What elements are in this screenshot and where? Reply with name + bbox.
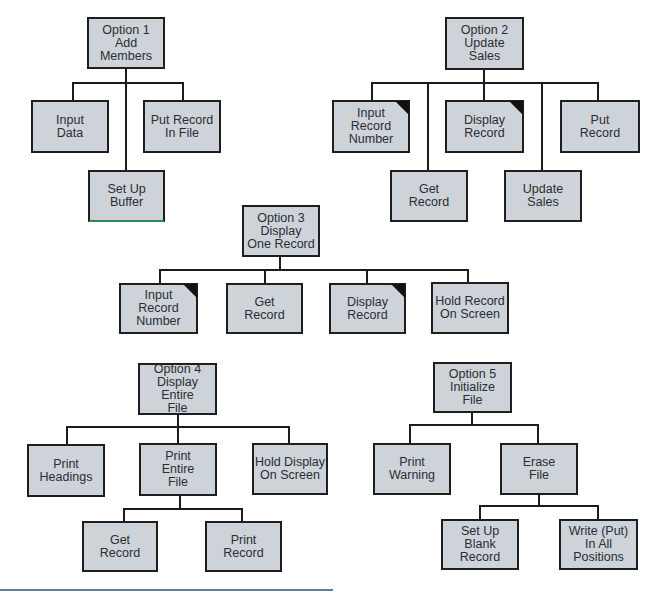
- option2-update-sales-box: Option 2 Update Sales: [445, 17, 524, 70]
- set-up-buffer-box: Set Up Buffer: [88, 170, 165, 222]
- connector: [159, 269, 469, 271]
- connector: [288, 426, 290, 443]
- input-record-number-label: Input Record Number: [349, 107, 393, 146]
- connector: [123, 508, 243, 510]
- connector: [264, 269, 266, 283]
- option3-display-one-record-box: Option 3 Display One Record: [242, 205, 320, 257]
- update-sales-box: Update Sales: [504, 170, 582, 222]
- connector: [371, 82, 599, 84]
- input-data-box: Input Data: [31, 100, 109, 153]
- corner-marker-icon: [509, 101, 523, 115]
- connector: [479, 505, 599, 507]
- connector: [123, 508, 125, 521]
- connector: [537, 424, 539, 443]
- connector: [125, 69, 127, 170]
- connector: [177, 414, 179, 443]
- connector: [72, 82, 184, 84]
- display-record-label: Display Record: [464, 114, 505, 140]
- erase-file-box: Erase File: [500, 443, 578, 495]
- display-record-box: Display Record: [329, 283, 406, 334]
- get-record-box: Get Record: [226, 283, 303, 334]
- connector: [179, 495, 181, 509]
- print-headings-box: Print Headings: [27, 444, 105, 497]
- connector: [66, 426, 68, 444]
- connector: [72, 82, 74, 100]
- connector: [427, 82, 429, 170]
- connector: [541, 82, 543, 170]
- put-record-in-file-box: Put Record In File: [143, 100, 221, 153]
- display-record-box: Display Record: [445, 100, 524, 153]
- input-record-number-box: Input Record Number: [119, 283, 198, 334]
- input-record-number-box: Input Record Number: [332, 100, 410, 153]
- option5-initialize-file-box: Option 5 Initialize File: [433, 362, 512, 413]
- option4-display-entire-file-box: Option 4 Display Entire File: [138, 363, 217, 415]
- get-record-box: Get Record: [82, 521, 158, 572]
- connector: [371, 82, 373, 100]
- corner-marker-icon: [395, 101, 409, 115]
- set-up-blank-record-box: Set Up Blank Record: [441, 519, 519, 570]
- connector: [182, 82, 184, 100]
- print-warning-box: Print Warning: [373, 443, 451, 495]
- display-record-label: Display Record: [347, 296, 388, 322]
- connector: [467, 269, 469, 283]
- input-record-number-label: Input Record Number: [136, 289, 180, 328]
- print-record-box: Print Record: [205, 521, 282, 572]
- hold-display-on-screen-box: Hold Display On Screen: [252, 443, 328, 495]
- connector: [597, 505, 599, 519]
- option1-add-members-box: Option 1 Add Members: [87, 17, 165, 69]
- connector: [597, 82, 599, 100]
- hold-record-on-screen-box: Hold Record On Screen: [431, 282, 509, 334]
- connector: [66, 426, 290, 428]
- corner-marker-icon: [391, 284, 405, 298]
- write-put-in-all-positions-box: Write (Put) In All Positions: [559, 519, 638, 570]
- connector: [409, 424, 539, 426]
- connector: [483, 69, 485, 100]
- get-record-box: Get Record: [390, 170, 468, 222]
- connector: [409, 424, 411, 443]
- put-record-box: Put Record: [560, 100, 640, 153]
- print-entire-file-box: Print Entire File: [139, 443, 217, 496]
- corner-marker-icon: [183, 284, 197, 298]
- connector: [241, 508, 243, 521]
- connector: [479, 505, 481, 519]
- horizontal-rule: [0, 589, 333, 591]
- connector: [159, 269, 161, 283]
- connector: [366, 269, 368, 283]
